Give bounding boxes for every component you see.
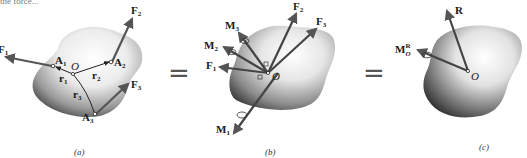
origin-o <box>71 72 74 75</box>
label-m2: M2 <box>204 39 218 53</box>
top-text-fragment: the force... <box>0 0 38 6</box>
panel-a: F1 F2 F3 A1 A2 A3 r1 r2 r3 O (a) <box>0 4 142 157</box>
label-f2: F2 <box>131 4 142 18</box>
label-r: R <box>455 4 464 16</box>
label-f3: F3 <box>131 78 142 92</box>
label-m1: M1 <box>216 123 230 137</box>
force-arrow-f1 <box>6 57 52 66</box>
origin-o <box>266 71 269 74</box>
label-o: O <box>71 60 79 72</box>
caption-a: (a) <box>74 147 85 157</box>
label-mor: MRO <box>395 42 411 58</box>
panel-b: F2 F3 F1 M2 M3 M1 O (b) <box>204 0 335 157</box>
caption-b: (b) <box>265 147 276 157</box>
point-a3 <box>93 112 97 116</box>
panel-c: R MRO O (c) <box>395 4 522 152</box>
label-m3: M3 <box>225 19 239 33</box>
label-f2: F2 <box>293 0 304 14</box>
origin-o <box>466 69 469 72</box>
label-f3: F3 <box>316 15 327 29</box>
equals-sign-2: = <box>363 58 385 88</box>
label-o: O <box>471 70 479 82</box>
point-a2 <box>109 60 113 64</box>
rigid-body-a <box>33 27 143 117</box>
equals-sign-1: = <box>168 58 190 88</box>
label-o: O <box>272 70 280 82</box>
curl-icon-m1 <box>237 112 247 118</box>
caption-c: (c) <box>479 142 489 152</box>
label-f1: F1 <box>206 59 217 73</box>
force-system-figure: the force... F1 F2 F3 A1 A2 A3 r1 r2 r3 … <box>0 0 527 158</box>
label-f1: F1 <box>0 43 9 57</box>
